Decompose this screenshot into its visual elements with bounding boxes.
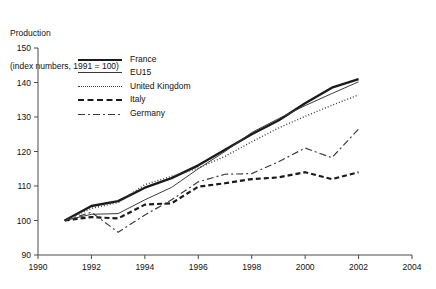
svg-text:1992: 1992 [82, 262, 101, 272]
series-line-germany [65, 129, 359, 232]
svg-text:1990: 1990 [29, 262, 48, 272]
legend-label-eu15: EU15 [130, 67, 151, 77]
svg-text:2002: 2002 [349, 262, 368, 272]
uk-line-key [78, 80, 122, 92]
france-line-key [78, 53, 122, 65]
svg-text:130: 130 [17, 112, 31, 122]
germany-line-key [78, 107, 122, 119]
legend-label-italy: Italy [130, 94, 146, 104]
svg-text:110: 110 [17, 181, 31, 191]
eu15-line-key [78, 66, 122, 78]
svg-text:90: 90 [22, 250, 32, 260]
legend-item-united-kingdom: United Kingdom [78, 79, 190, 93]
svg-text:120: 120 [17, 147, 31, 157]
chart-container: Production (index numbers, 1991 = 100) 9… [0, 0, 436, 289]
svg-text:150: 150 [17, 43, 31, 53]
legend-label-germany: Germany [130, 108, 165, 118]
legend-label-united-kingdom: United Kingdom [130, 81, 190, 91]
svg-text:1994: 1994 [135, 262, 154, 272]
legend-item-italy: Italy [78, 93, 190, 107]
legend-item-germany: Germany [78, 106, 190, 120]
chart-plot-area: 9010011012013014015019901992199419961998… [0, 0, 436, 289]
svg-text:1998: 1998 [242, 262, 261, 272]
chart-legend: France EU15 United Kingdom Italy Germany [78, 52, 190, 120]
series-line-italy [65, 172, 359, 220]
svg-text:2004: 2004 [403, 262, 422, 272]
legend-item-france: France [78, 52, 190, 66]
svg-text:100: 100 [17, 216, 31, 226]
legend-item-eu15: EU15 [78, 66, 190, 80]
legend-label-france: France [130, 54, 156, 64]
italy-line-key [78, 93, 122, 105]
svg-text:2000: 2000 [296, 262, 315, 272]
svg-text:140: 140 [17, 78, 31, 88]
svg-text:1996: 1996 [189, 262, 208, 272]
